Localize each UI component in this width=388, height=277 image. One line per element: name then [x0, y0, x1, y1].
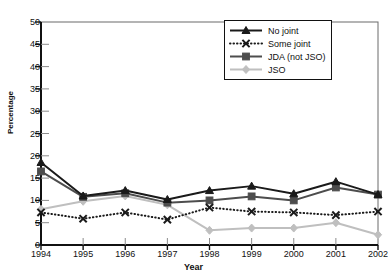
chart-legend: No jointSome jointJDA (not JSO)JSO: [224, 20, 332, 80]
x-axis-tick-label: 1994: [31, 249, 51, 259]
diamond-marker: [229, 64, 263, 75]
x-marker: [229, 38, 263, 49]
legend-item-no-joint: No joint: [229, 24, 326, 37]
legend-label: JSO: [263, 65, 286, 75]
legend-label: JDA (not JSO): [263, 52, 326, 62]
triangle-marker: [229, 25, 263, 36]
legend-item-some-joint: Some joint: [229, 37, 326, 50]
legend-label: No joint: [263, 26, 299, 36]
square-marker: [229, 51, 263, 62]
x-axis-tick-label: 1999: [242, 249, 262, 259]
series-no-joint: [37, 158, 382, 202]
x-axis-tick-label: 1997: [157, 249, 177, 259]
legend-label: Some joint: [263, 39, 311, 49]
series-some-joint: [37, 204, 381, 223]
x-axis-tick-label: 2001: [326, 249, 346, 259]
x-axis-tick-label: 1996: [115, 249, 135, 259]
x-axis-tick-label: 1995: [73, 249, 93, 259]
x-axis-tick-label: 2002: [368, 249, 388, 259]
x-axis-tick-label: 2000: [284, 249, 304, 259]
legend-item-jda-not-jso-: JDA (not JSO): [229, 50, 326, 63]
legend-item-jso: JSO: [229, 63, 326, 76]
x-axis-tick-label: 1998: [199, 249, 219, 259]
